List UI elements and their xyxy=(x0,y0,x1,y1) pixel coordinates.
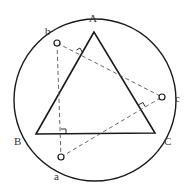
point-b-marker xyxy=(54,40,60,46)
point-a-marker xyxy=(58,154,64,160)
label-A: A xyxy=(89,12,97,24)
label-b: b xyxy=(45,25,51,37)
label-B: B xyxy=(14,135,21,147)
label-c: c xyxy=(175,92,180,104)
geometry-diagram: A b c B C a xyxy=(0,0,189,189)
label-C: C xyxy=(164,135,171,147)
point-c-marker xyxy=(159,94,165,100)
label-a: a xyxy=(54,170,59,182)
